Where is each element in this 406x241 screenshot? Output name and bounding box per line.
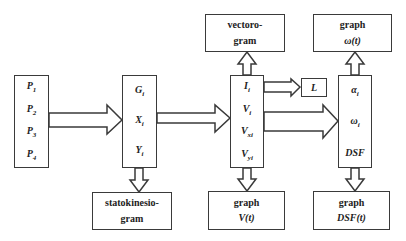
arrow-g-to-i bbox=[157, 105, 230, 132]
g-label: Gi bbox=[135, 85, 144, 98]
graph-dsf-line1: graph bbox=[339, 198, 365, 208]
statokinesiogram-box: statokinesio- gram bbox=[92, 192, 172, 230]
vy-label: Vyi bbox=[241, 149, 253, 162]
arrow-i-to-vectorogram bbox=[238, 52, 256, 75]
p1-label: P1 bbox=[27, 81, 37, 94]
arrow-p-to-g bbox=[49, 105, 122, 134]
vx-label: Vxi bbox=[241, 126, 253, 139]
gxy-box: Gi Xi Yi bbox=[122, 75, 157, 168]
alpha-label: αi bbox=[351, 85, 359, 98]
dsf-label: DSF bbox=[345, 148, 364, 158]
graph-v-box: graph V(t) bbox=[208, 191, 285, 230]
angle-box: αi ωi DSF bbox=[338, 75, 372, 168]
l-label: L bbox=[311, 83, 317, 93]
vectorogram-box: vectoro- gram bbox=[205, 14, 285, 52]
omega-label: ωi bbox=[350, 116, 359, 129]
p2-label: P2 bbox=[27, 104, 37, 117]
arrow-g-to-statokinesiogram bbox=[130, 168, 148, 192]
velocity-box: Ii Vi Vxi Vyi bbox=[230, 75, 264, 168]
statokinesiogram-line1: statokinesio- bbox=[105, 198, 159, 208]
arrow-alpha-to-graph-dsf bbox=[346, 168, 364, 191]
y-label: Yi bbox=[135, 145, 143, 158]
x-label: Xi bbox=[135, 115, 144, 128]
graph-omega-line1: graph bbox=[340, 20, 366, 30]
input-p-box: P1 P2 P3 P4 bbox=[14, 75, 49, 168]
graph-omega-box: graph ω(t) bbox=[313, 14, 392, 52]
graph-omega-line2: ω(t) bbox=[344, 36, 361, 46]
arrow-i-to-alpha bbox=[264, 105, 338, 138]
p4-label: P4 bbox=[27, 149, 37, 162]
arrow-i-to-graph-v bbox=[238, 168, 256, 191]
vectorogram-line1: vectoro- bbox=[228, 20, 263, 30]
graph-dsf-line2: DSF(t) bbox=[337, 213, 366, 223]
arrow-alpha-to-graph-omega bbox=[346, 52, 364, 75]
graph-dsf-box: graph DSF(t) bbox=[313, 191, 390, 230]
v-label: Vi bbox=[243, 104, 252, 117]
graph-v-line1: graph bbox=[234, 198, 260, 208]
i-label: Ii bbox=[244, 81, 250, 94]
p3-label: P3 bbox=[27, 126, 37, 139]
arrow-i-to-l bbox=[264, 79, 300, 96]
graph-v-line2: V(t) bbox=[238, 213, 254, 223]
vectorogram-line2: gram bbox=[234, 36, 257, 46]
l-box: L bbox=[301, 78, 327, 97]
statokinesiogram-line2: gram bbox=[121, 214, 144, 224]
